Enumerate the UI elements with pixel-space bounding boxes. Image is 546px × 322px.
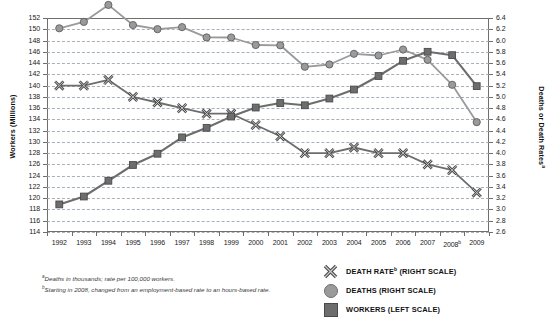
legend-item-deaths[interactable]: DEATHS (RIGHT SCALE) — [322, 281, 456, 300]
legend-item-death-rate[interactable]: DEATH RATEb (RIGHT SCALE) — [322, 262, 456, 281]
data-point — [154, 26, 161, 33]
data-point — [301, 63, 308, 70]
data-point — [252, 104, 259, 111]
data-point — [473, 119, 480, 126]
legend-label: DEATH RATEb (RIGHT SCALE) — [346, 266, 456, 276]
data-point — [473, 83, 480, 90]
data-point — [424, 56, 431, 63]
square-icon — [324, 303, 338, 317]
data-point — [228, 34, 235, 41]
data-point — [351, 86, 358, 93]
circle-marker-icon — [322, 282, 339, 299]
legend-label: DEATHS (RIGHT SCALE) — [346, 286, 436, 295]
data-point — [375, 73, 382, 80]
data-point — [179, 134, 186, 141]
data-point — [252, 41, 259, 48]
legend-label: WORKERS (LEFT SCALE) — [346, 305, 440, 314]
square-marker-icon — [322, 301, 339, 318]
data-point — [56, 201, 63, 208]
data-point — [449, 52, 456, 59]
x-marker-icon — [322, 263, 339, 280]
series-deaths — [56, 1, 481, 125]
series-workers — [56, 48, 480, 207]
data-point — [277, 100, 284, 107]
data-point — [154, 150, 161, 157]
chart-legend: DEATH RATEb (RIGHT SCALE)DEATHS (RIGHT S… — [322, 262, 456, 319]
data-point — [178, 24, 185, 31]
data-point — [56, 25, 63, 32]
footnotes: aDeaths in thousands; rate per 100,000 w… — [42, 272, 270, 293]
data-point — [473, 188, 481, 196]
chart-container: Workers (Millions) Deaths or Death Rates… — [0, 0, 546, 322]
data-point — [399, 46, 406, 53]
data-point — [203, 34, 210, 41]
data-point — [350, 50, 357, 57]
data-point — [326, 61, 333, 68]
data-point — [80, 18, 87, 25]
legend-label-scale: (RIGHT SCALE) — [397, 268, 456, 277]
data-point — [375, 52, 382, 59]
data-point — [203, 124, 210, 131]
data-point — [130, 162, 137, 169]
footnote: bStarting in 2008, changed from an emplo… — [42, 283, 270, 294]
footnote-text: Starting in 2008, changed from an employ… — [45, 286, 271, 293]
footnote-text: Deaths in thousands; rate per 100,000 wo… — [45, 275, 175, 282]
data-point — [252, 121, 260, 129]
data-point — [228, 113, 235, 120]
data-point — [105, 1, 112, 8]
data-point — [424, 48, 431, 55]
footnote: aDeaths in thousands; rate per 100,000 w… — [42, 272, 270, 283]
x-icon — [323, 264, 338, 279]
data-point — [276, 132, 284, 140]
legend-item-workers[interactable]: WORKERS (LEFT SCALE) — [322, 300, 456, 319]
data-point — [326, 95, 333, 102]
legend-label-name: DEATH RATE — [346, 268, 394, 277]
data-point — [449, 81, 456, 88]
series-death-rate — [55, 76, 481, 197]
circle-icon — [324, 284, 338, 298]
data-point — [400, 57, 407, 64]
data-point — [105, 177, 112, 184]
data-point — [277, 42, 284, 49]
data-point — [80, 193, 87, 200]
data-point — [129, 21, 136, 28]
data-point — [301, 102, 308, 109]
